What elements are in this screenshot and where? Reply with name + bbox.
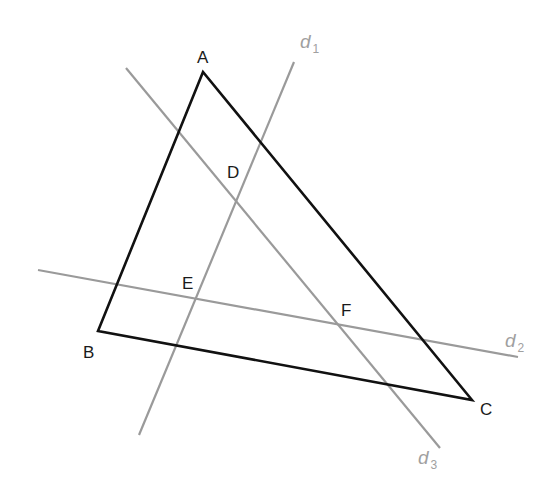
- triangle-outline: [98, 72, 472, 400]
- vertex-labels: ABC: [83, 48, 492, 419]
- geometry-diagram: ABC DEF d1d2d3: [0, 0, 555, 497]
- line-label-subscript: 1: [313, 42, 320, 56]
- line-label-name: d: [505, 330, 517, 351]
- line-d1: [139, 62, 294, 435]
- vertex-label-b: B: [83, 343, 94, 362]
- line-d2: [38, 270, 518, 357]
- point-label-e: E: [182, 274, 193, 293]
- point-label-f: F: [341, 301, 351, 320]
- line-label-d3: d3: [418, 447, 438, 472]
- line-label-name: d: [300, 31, 312, 52]
- line-d3: [126, 68, 440, 448]
- line-label-name: d: [418, 447, 430, 468]
- vertex-label-a: A: [197, 48, 209, 67]
- triangle-abc: [98, 72, 472, 400]
- vertex-label-c: C: [480, 400, 492, 419]
- line-label-subscript: 3: [431, 458, 438, 472]
- line-label-subscript: 2: [518, 341, 525, 355]
- line-label-d2: d2: [505, 330, 525, 355]
- intersection-point-labels: DEF: [182, 163, 351, 320]
- line-label-d1: d1: [300, 31, 320, 56]
- point-label-d: D: [227, 163, 239, 182]
- construction-lines: [38, 62, 518, 448]
